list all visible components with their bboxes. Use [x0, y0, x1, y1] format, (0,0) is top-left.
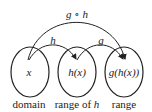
- g-label: g: [98, 34, 104, 46]
- arrow-g: [77, 45, 123, 60]
- composition-label: g ∘ h: [66, 8, 88, 20]
- arrow-h: [29, 45, 76, 60]
- composition-diagram: g ∘ h h g x h(x) g(h(x)) domain range of…: [0, 0, 152, 112]
- range-of-h-var: h: [94, 98, 100, 110]
- range-caption: range: [112, 98, 137, 110]
- range-of-h-caption: range of h: [55, 98, 100, 110]
- x-element: x: [26, 66, 32, 78]
- ghx-element: g(h(x)): [109, 66, 140, 79]
- domain-caption: domain: [13, 98, 46, 110]
- hx-element: h(x): [68, 66, 86, 79]
- range-of-h-prefix: range of: [55, 98, 94, 110]
- h-label: h: [50, 34, 56, 46]
